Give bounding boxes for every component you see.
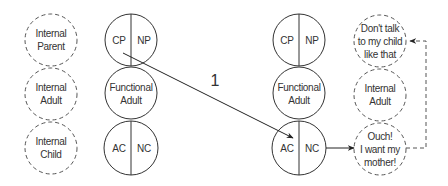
label-ac: AC (280, 143, 293, 154)
right-internal-adult: Internal Adult (354, 69, 406, 121)
label: I want my (360, 144, 400, 155)
label: Ouch! (367, 131, 392, 142)
label-np: NP (137, 35, 151, 46)
label: Adult (288, 95, 310, 106)
label: Functional (109, 82, 152, 93)
left-functional-adult: Functional Adult (105, 67, 157, 119)
right-functional-child: AC NC (272, 121, 326, 175)
label-ac: AC (112, 143, 125, 154)
label: Internal (36, 82, 67, 93)
label: Adult (120, 95, 142, 106)
label: Don't talk (361, 23, 401, 34)
feedback-dashed-arrow (406, 41, 426, 148)
left-functional-child: AC NC (104, 121, 158, 175)
label: Internal (36, 136, 67, 147)
label: Child (40, 149, 61, 160)
right-internal-child: Ouch! I want my mother! (354, 123, 406, 175)
label: Parent (37, 41, 65, 52)
label: mother! (364, 157, 396, 168)
label: Internal (365, 83, 396, 94)
label-nc: NC (137, 143, 151, 154)
label-nc: NC (305, 143, 319, 154)
right-internal-parent: Don't talk to my child like that (354, 15, 406, 67)
label-cp: CP (280, 35, 294, 46)
label: Adult (369, 96, 391, 107)
label: like that (364, 49, 396, 60)
transactional-analysis-diagram: Internal Parent Internal Adult Internal … (0, 0, 448, 186)
label-np: NP (305, 35, 319, 46)
label: Internal (36, 28, 67, 39)
label: Adult (40, 95, 62, 106)
label: Functional (277, 82, 320, 93)
transaction-number: 1 (211, 72, 220, 89)
left-internal-child: Internal Child (25, 122, 77, 174)
right-functional-parent: CP NP (273, 14, 325, 66)
right-functional-adult: Functional Adult (273, 67, 325, 119)
label-cp: CP (112, 35, 126, 46)
label: to my child (358, 36, 403, 47)
left-internal-adult: Internal Adult (25, 68, 77, 120)
left-internal-parent: Internal Parent (25, 14, 77, 66)
left-functional-parent: CP NP (105, 14, 157, 66)
